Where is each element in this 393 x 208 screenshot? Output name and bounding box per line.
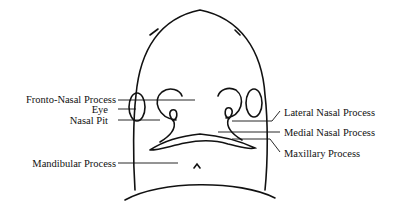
label-medial-nasal-process: Medial Nasal Process [284, 127, 375, 138]
label-mandibular-process: Mandibular Process [0, 158, 116, 169]
embryo-face-diagram: Fronto-Nasal Process Eye Nasal Pit Mandi… [0, 0, 393, 208]
label-eye: Eye [0, 104, 108, 115]
label-nasal-pit: Nasal Pit [0, 115, 108, 126]
label-maxillary-process: Maxillary Process [284, 148, 360, 159]
label-lateral-nasal-process: Lateral Nasal Process [284, 107, 375, 118]
